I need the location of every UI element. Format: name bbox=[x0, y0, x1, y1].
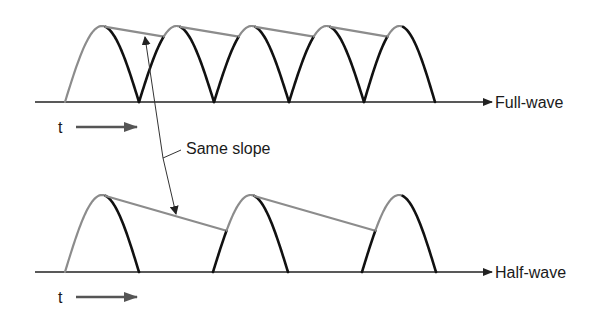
rectified-falling-edge bbox=[106, 27, 139, 102]
rectified-rising-edge bbox=[364, 37, 387, 102]
rectified-rising-edge bbox=[289, 37, 314, 102]
full-wave-rectified-signal bbox=[65, 26, 435, 102]
rectified-rising-edge bbox=[362, 231, 375, 272]
full-wave-label: Full-wave bbox=[495, 94, 564, 111]
charging-curve bbox=[164, 26, 181, 37]
charging-curve bbox=[65, 195, 106, 272]
half-wave-panel: Half-wave t bbox=[35, 195, 566, 306]
half-wave-rectified-signal bbox=[65, 195, 436, 272]
same-slope-annotation: Same slope bbox=[145, 37, 271, 214]
rectifier-ripple-diagram: Full-wave t Half-wave t Same slope bbox=[0, 0, 615, 316]
rectified-falling-edge bbox=[403, 196, 436, 272]
charging-curve bbox=[227, 195, 255, 231]
same-slope-label: Same slope bbox=[186, 140, 271, 157]
charging-curve bbox=[375, 195, 402, 231]
rectified-falling-edge bbox=[106, 196, 139, 272]
rectified-falling-edge bbox=[254, 196, 288, 272]
rectified-rising-edge bbox=[213, 231, 227, 272]
time-label-top: t bbox=[58, 119, 63, 136]
time-label-bottom: t bbox=[58, 289, 63, 306]
leader-line-down bbox=[163, 158, 176, 214]
charging-curve bbox=[314, 26, 331, 37]
rectified-falling-edge bbox=[403, 27, 435, 102]
rectified-falling-edge bbox=[180, 27, 214, 102]
rectified-falling-edge bbox=[330, 27, 364, 102]
diagram-canvas: Full-wave t Half-wave t Same slope bbox=[0, 0, 615, 316]
rectified-falling-edge bbox=[255, 27, 289, 102]
charging-curve bbox=[239, 26, 256, 37]
leader-elbow bbox=[163, 150, 181, 158]
half-wave-label: Half-wave bbox=[495, 264, 566, 281]
rectified-rising-edge bbox=[214, 37, 239, 102]
charging-curve bbox=[65, 26, 106, 102]
charging-curve bbox=[387, 26, 403, 37]
full-wave-panel: Full-wave t bbox=[35, 26, 564, 136]
rectified-rising-edge bbox=[139, 37, 164, 102]
